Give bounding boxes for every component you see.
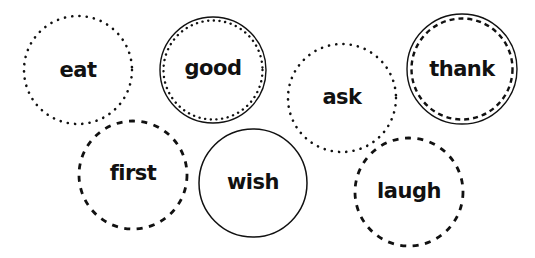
- word-good: good: [185, 56, 242, 80]
- word-thank: thank: [429, 57, 495, 81]
- word-eat: eat: [60, 58, 97, 82]
- circles-canvas: [0, 0, 535, 258]
- word-first: first: [110, 161, 157, 185]
- word-circles-worksheet: eat good ask thank first wish laugh: [0, 0, 535, 258]
- word-wish: wish: [227, 170, 279, 194]
- word-ask: ask: [322, 85, 361, 109]
- word-laugh: laugh: [377, 179, 441, 203]
